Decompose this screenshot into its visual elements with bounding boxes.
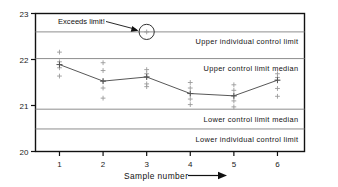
y-tick-label-1: 21 bbox=[20, 102, 29, 111]
y-tick-label-0: 20 bbox=[20, 148, 29, 157]
x-axis: 123456 bbox=[57, 152, 280, 169]
x-tick-label-3: 4 bbox=[188, 160, 193, 169]
control-limit-label-0: Upper individual control limit bbox=[196, 37, 299, 46]
y-tick-label-2: 22 bbox=[20, 56, 29, 65]
x-axis-arrow-head bbox=[218, 172, 227, 179]
y-tick-label-3: 23 bbox=[20, 10, 29, 19]
spc-median-control-chart: Upper individual control limitUpper cont… bbox=[0, 0, 338, 187]
control-limit-label-2: Lower control limit median bbox=[204, 115, 299, 124]
y-axis: 20212223 bbox=[20, 10, 36, 157]
exceeds-limit-label: Exceeds limit! bbox=[58, 17, 105, 26]
chart-canvas: Upper individual control limitUpper cont… bbox=[0, 0, 338, 187]
x-axis-caption: Sample number bbox=[124, 171, 188, 181]
control-limit-label-3: Lower individual control limit bbox=[196, 135, 299, 144]
x-tick-label-0: 1 bbox=[57, 160, 62, 169]
x-tick-label-4: 5 bbox=[232, 160, 237, 169]
x-tick-label-1: 2 bbox=[101, 160, 106, 169]
x-tick-label-2: 3 bbox=[144, 160, 149, 169]
control-limit-label-1: Upper control limit median bbox=[204, 64, 299, 73]
plot-area-border bbox=[36, 14, 305, 152]
x-tick-label-5: 6 bbox=[275, 160, 280, 169]
